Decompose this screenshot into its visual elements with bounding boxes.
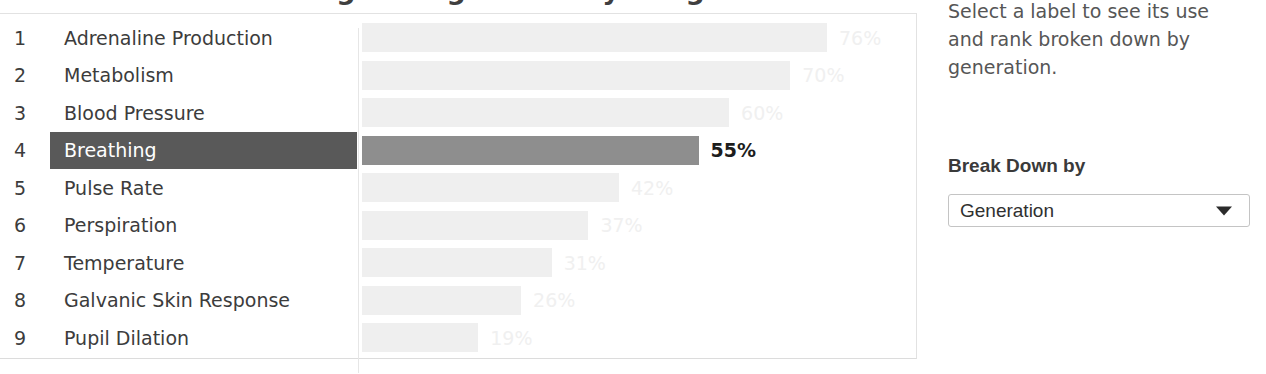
bar-row[interactable]: 1Adrenaline Production76% <box>0 19 917 56</box>
bar[interactable] <box>362 173 619 202</box>
bar[interactable] <box>362 211 588 240</box>
bar[interactable] <box>362 98 729 127</box>
bar[interactable] <box>362 136 699 165</box>
bar-track: 31% <box>362 248 917 277</box>
row-rank: 3 <box>8 102 32 124</box>
row-label-text: Pulse Rate <box>64 177 164 199</box>
row-label-text: Metabolism <box>64 64 174 86</box>
cut-off-title-text: Organizing Labels by Usage <box>300 0 723 5</box>
bar-row[interactable]: 4Breathing55% <box>0 132 917 169</box>
row-label-button[interactable]: Breathing <box>50 132 357 169</box>
bar-value-label: 26% <box>533 289 575 311</box>
bar-track: 60% <box>362 98 917 127</box>
row-label-text: Galvanic Skin Response <box>64 289 290 311</box>
bar-row[interactable]: 6Perspiration37% <box>0 207 917 244</box>
bar-value-label: 31% <box>564 252 606 274</box>
bar-row[interactable]: 3Blood Pressure60% <box>0 94 917 131</box>
bar-track: 70% <box>362 61 917 90</box>
bar-value-label: 76% <box>839 27 881 49</box>
row-label-button[interactable]: Galvanic Skin Response <box>50 282 357 319</box>
row-rank: 1 <box>8 27 32 49</box>
bar-row[interactable]: 5Pulse Rate42% <box>0 169 917 206</box>
row-rank: 8 <box>8 289 32 311</box>
row-label-button[interactable]: Blood Pressure <box>50 94 357 131</box>
side-panel: Select a label to see its use and rank b… <box>948 0 1266 374</box>
row-label-button[interactable]: Pupil Dilation <box>50 319 357 356</box>
bar-row[interactable]: 7Temperature31% <box>0 244 917 281</box>
bar[interactable] <box>362 61 790 90</box>
bar[interactable] <box>362 323 478 352</box>
row-label-text: Perspiration <box>64 214 177 236</box>
row-label-text: Temperature <box>64 252 184 274</box>
row-rank: 6 <box>8 214 32 236</box>
bar-track: 55% <box>362 136 917 165</box>
hint-text: Select a label to see its use and rank b… <box>948 0 1238 81</box>
bar-value-label: 37% <box>600 214 642 236</box>
row-label-button[interactable]: Perspiration <box>50 207 357 244</box>
bar-value-label: 19% <box>490 327 532 349</box>
usage-bar-chart-panel: 1Adrenaline Production76%2Metabolism70%3… <box>0 13 917 359</box>
bar[interactable] <box>362 248 552 277</box>
row-label-button[interactable]: Temperature <box>50 244 357 281</box>
row-rank: 4 <box>8 139 32 161</box>
row-label-button[interactable]: Metabolism <box>50 57 357 94</box>
bar-track: 19% <box>362 323 917 352</box>
breakdown-by-select[interactable]: Generation <box>948 194 1250 227</box>
breakdown-heading: Break Down by <box>948 155 1085 177</box>
row-label-text: Adrenaline Production <box>64 27 273 49</box>
row-label-text: Pupil Dilation <box>64 327 189 349</box>
bar-track: 26% <box>362 286 917 315</box>
bar-value-label: 70% <box>802 64 844 86</box>
bar-value-label: 42% <box>631 177 673 199</box>
bar-row[interactable]: 9Pupil Dilation19% <box>0 319 917 356</box>
bar-row[interactable]: 2Metabolism70% <box>0 57 917 94</box>
bar-value-label: 55% <box>711 139 756 161</box>
bar-track: 37% <box>362 211 917 240</box>
breakdown-by-selected-value: Generation <box>960 200 1054 222</box>
bar-value-label: 60% <box>741 102 783 124</box>
row-label-button[interactable]: Pulse Rate <box>50 169 357 206</box>
row-rank: 9 <box>8 327 32 349</box>
bar-track: 76% <box>362 23 917 52</box>
bar-track: 42% <box>362 173 917 202</box>
row-label-button[interactable]: Adrenaline Production <box>50 19 357 56</box>
row-label-text: Breathing <box>64 139 157 161</box>
row-label-text: Blood Pressure <box>64 102 205 124</box>
chevron-down-icon <box>1216 206 1232 215</box>
row-rank: 2 <box>8 64 32 86</box>
row-rank: 7 <box>8 252 32 274</box>
row-rank: 5 <box>8 177 32 199</box>
bar[interactable] <box>362 286 521 315</box>
bar[interactable] <box>362 23 827 52</box>
bar-row[interactable]: 8Galvanic Skin Response26% <box>0 282 917 319</box>
